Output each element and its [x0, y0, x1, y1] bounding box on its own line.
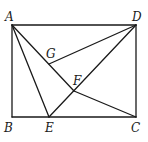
- segment-ae: [12, 25, 49, 117]
- label-d: D: [131, 10, 142, 24]
- segment-dg: [49, 25, 136, 64]
- point-labels: A B C D E F G: [3, 10, 142, 135]
- label-g: G: [46, 47, 56, 61]
- segments: [12, 25, 136, 117]
- label-a: A: [4, 10, 14, 24]
- geometry-diagram: A B C D E F G: [0, 0, 148, 142]
- segment-af: [12, 25, 74, 91]
- label-e: E: [44, 121, 54, 135]
- label-b: B: [3, 121, 13, 135]
- segment-fc: [74, 91, 136, 117]
- segment-de: [49, 25, 136, 117]
- label-f: F: [72, 74, 82, 88]
- label-c: C: [131, 121, 140, 135]
